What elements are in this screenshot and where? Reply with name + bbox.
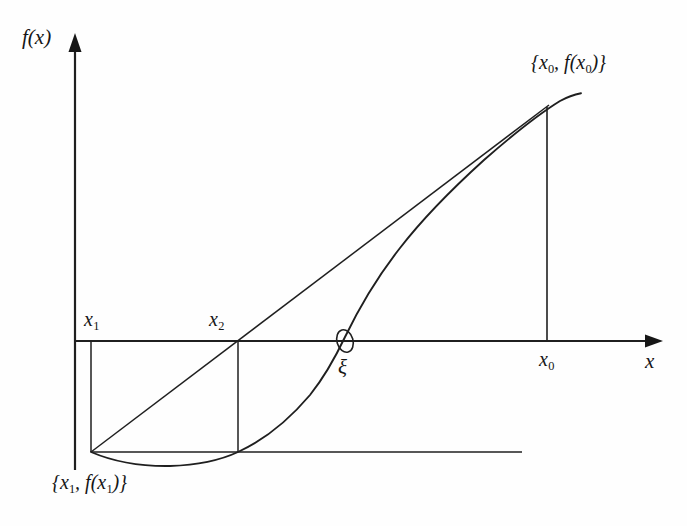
secant-line: [91, 105, 549, 452]
function-curve: [91, 93, 581, 466]
point-x1-label: {x1, f(x1)}: [52, 472, 127, 492]
y-axis: [69, 33, 82, 470]
x2-tick-label: x2: [209, 309, 224, 329]
x-axis: [75, 335, 663, 348]
x0-tick-label: x0: [539, 349, 554, 369]
x1-tick-label: x1: [84, 309, 99, 329]
point-x0-label: {x0, f(x0)}: [531, 52, 606, 72]
y-axis-label: f(x): [22, 27, 51, 48]
secant-method-figure: f(x) {x0, f(x0)} x1 x2 x0 x ξ {x1, f(x1)…: [0, 0, 687, 526]
figure-canvas: [0, 0, 687, 526]
x-axis-label: x: [645, 351, 654, 372]
root-xi-label: ξ: [338, 357, 347, 378]
